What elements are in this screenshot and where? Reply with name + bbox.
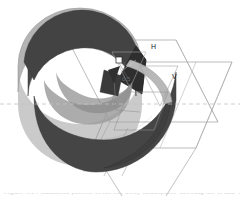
label-plane-v: V <box>172 73 177 80</box>
plane-crossing-line-2 <box>196 62 232 148</box>
origin-marker-icon <box>116 57 122 63</box>
figure-caption: Figure 3.14 Radiation pattern of the cut… <box>4 193 240 196</box>
plane-v-edge-extension-right <box>166 148 196 196</box>
label-center-annotation: 0.5 <box>122 76 131 82</box>
plane-diagonal-1 <box>176 40 218 122</box>
label-plane-h: H <box>151 43 156 50</box>
figure-canvas: H V 0.5 <box>0 0 240 204</box>
figure-caption-strip: Figure 3.14 Radiation pattern of the cut… <box>0 193 240 204</box>
figure-root: H V 0.5 Figure 3.14 Radiation pattern of… <box>0 0 240 204</box>
